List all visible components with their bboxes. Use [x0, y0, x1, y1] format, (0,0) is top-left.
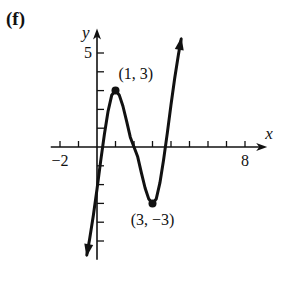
x-axis-label: x — [264, 124, 273, 143]
point-marker — [149, 199, 157, 207]
point-label-min: (3, −3) — [131, 211, 175, 229]
point-marker — [112, 87, 120, 95]
labels: −285xy(1, 3)(3, −3) — [51, 23, 273, 230]
x-tick-label: 8 — [241, 152, 249, 169]
y-axis-label: y — [80, 23, 90, 42]
cubic-graph: −285xy(1, 3)(3, −3) — [0, 0, 287, 291]
x-tick-label: −2 — [51, 152, 68, 169]
y-tick-label: 5 — [84, 44, 92, 61]
point-label-max: (1, 3) — [119, 65, 154, 83]
